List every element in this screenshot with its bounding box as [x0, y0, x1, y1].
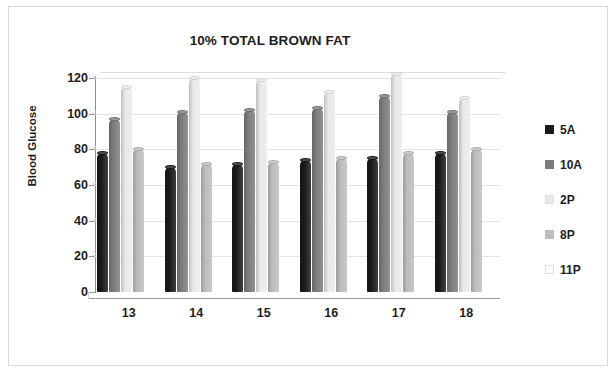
bar-cap	[256, 78, 267, 82]
x-tick-label-13: 13	[109, 306, 149, 320]
legend-label-8p: 8P	[560, 228, 575, 242]
legend-swatch-2p	[545, 195, 554, 204]
legend-swatch-10a	[545, 160, 554, 169]
bar-group	[433, 78, 501, 292]
bar-5a-16[interactable]	[300, 160, 311, 292]
bar-cap	[367, 156, 378, 160]
bar-cap	[435, 151, 446, 155]
bar-10a-17[interactable]	[379, 96, 390, 292]
bar-cap	[177, 110, 188, 114]
x-axis-line	[88, 292, 500, 299]
bar-10a-18[interactable]	[447, 112, 458, 292]
legend-item-11p[interactable]: 11P	[545, 252, 609, 287]
y-tick-label: 20	[54, 250, 88, 263]
bar-2p-16[interactable]	[324, 92, 335, 292]
bar-cap	[336, 156, 347, 160]
bar-cap	[471, 147, 482, 151]
bar-5a-15[interactable]	[232, 164, 243, 292]
bar-2p-17[interactable]	[391, 74, 402, 292]
bar-5a-18[interactable]	[435, 153, 446, 292]
bar-cap	[312, 106, 323, 110]
legend-item-2p[interactable]: 2P	[545, 182, 609, 217]
bar-group	[298, 78, 366, 292]
bar-cap	[201, 162, 212, 166]
x-tick-label-15: 15	[244, 306, 284, 320]
y-axis-title: Blood Glucose	[26, 86, 38, 206]
x-tick-labels: 131415161718	[95, 306, 500, 326]
bar-cap	[189, 76, 200, 80]
legend-label-10a: 10A	[560, 158, 582, 172]
y-tick-label: 120	[54, 72, 88, 85]
y-tick-label: 40	[54, 215, 88, 228]
plot-floor-edge	[88, 292, 97, 299]
bar-5a-13[interactable]	[97, 153, 108, 292]
plot-area: 020406080100120 131415161718	[60, 78, 500, 300]
bar-cap	[459, 96, 470, 100]
bar-cap	[447, 110, 458, 114]
bar-10a-13[interactable]	[109, 119, 120, 292]
x-tick-label-14: 14	[176, 306, 216, 320]
bar-group	[95, 78, 163, 292]
legend-label-5a: 5A	[560, 123, 575, 137]
legend-item-5a[interactable]: 5A	[545, 112, 609, 147]
chart-legend: 5A10A2P8P11P	[545, 112, 609, 287]
bar-group	[230, 78, 298, 292]
bar-cap	[324, 90, 335, 94]
x-tick-label-16: 16	[311, 306, 351, 320]
bar-cap	[379, 94, 390, 98]
bar-cap	[97, 151, 108, 155]
bar-group	[365, 78, 433, 292]
legend-swatch-5a	[545, 125, 554, 134]
bar-cap	[109, 117, 120, 121]
bar-cap	[403, 151, 414, 155]
bar-8p-13[interactable]	[133, 149, 144, 292]
bar-2p-18[interactable]	[459, 98, 470, 292]
bar-cap	[268, 160, 279, 164]
y-tick-label: 0	[54, 286, 88, 299]
y-tick-label: 100	[54, 108, 88, 121]
bar-8p-17[interactable]	[403, 153, 414, 292]
bar-8p-16[interactable]	[336, 158, 347, 292]
bar-cap	[165, 165, 176, 169]
bar-10a-14[interactable]	[177, 112, 188, 292]
x-tick-label-18: 18	[446, 306, 486, 320]
bar-5a-14[interactable]	[165, 167, 176, 292]
legend-swatch-8p	[545, 230, 554, 239]
legend-swatch-11p	[545, 265, 554, 274]
bar-cap	[232, 162, 243, 166]
legend-label-2p: 2P	[560, 193, 575, 207]
bar-5a-17[interactable]	[367, 158, 378, 292]
bar-cap	[244, 108, 255, 112]
legend-item-8p[interactable]: 8P	[545, 217, 609, 252]
chart-title: 10% TOTAL BROWN FAT	[60, 33, 480, 48]
bar-cap	[121, 85, 132, 89]
x-tick-label-17: 17	[379, 306, 419, 320]
bar-2p-13[interactable]	[121, 87, 132, 292]
bar-groups	[95, 78, 500, 292]
legend-label-11p: 11P	[560, 263, 581, 277]
chart-container: 10% TOTAL BROWN FAT Blood Glucose 020406…	[0, 0, 616, 375]
bar-2p-14[interactable]	[189, 78, 200, 292]
bar-2p-15[interactable]	[256, 80, 267, 292]
bar-cap	[300, 158, 311, 162]
bar-group	[163, 78, 231, 292]
bar-cap	[391, 72, 402, 76]
bar-10a-15[interactable]	[244, 110, 255, 292]
bar-cap	[133, 147, 144, 151]
bar-8p-14[interactable]	[201, 164, 212, 292]
bar-8p-15[interactable]	[268, 162, 279, 292]
bar-8p-18[interactable]	[471, 149, 482, 292]
bar-10a-16[interactable]	[312, 108, 323, 292]
legend-item-10a[interactable]: 10A	[545, 147, 609, 182]
y-tick-label: 80	[54, 143, 88, 156]
y-tick-label: 60	[54, 179, 88, 192]
